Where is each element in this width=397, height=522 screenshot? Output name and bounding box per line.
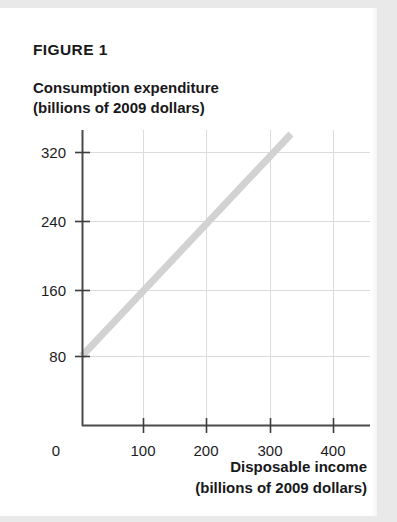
x-axis-title-line1: Disposable income xyxy=(195,456,367,477)
x-axis-title: Disposable income (billions of 2009 doll… xyxy=(195,456,367,498)
gridlines-vertical xyxy=(144,130,334,425)
x-axis-title-line2: (billions of 2009 dollars) xyxy=(195,477,367,498)
y-tick-label-240: 240 xyxy=(22,213,66,230)
chart-plot-area xyxy=(0,8,377,516)
x-tick-label-100: 100 xyxy=(130,442,155,459)
figure-page: FIGURE 1 Consumption expenditure (billio… xyxy=(0,8,377,516)
y-tick-label-80: 80 xyxy=(22,348,66,365)
gridlines-horizontal xyxy=(82,153,370,357)
y-tick-label-160: 160 xyxy=(22,282,66,299)
x-tick-label-0: 0 xyxy=(52,442,60,459)
y-tick-label-320: 320 xyxy=(22,144,66,161)
consumption-function-line xyxy=(82,134,291,356)
